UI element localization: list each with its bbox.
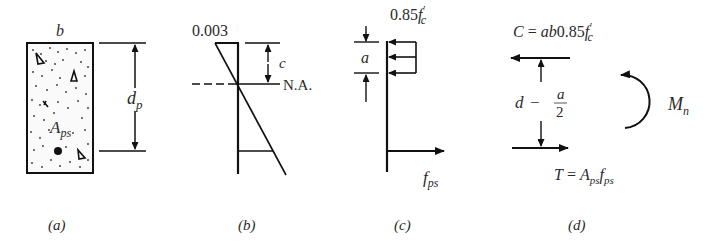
compression-formula: C = ab0.85f′c xyxy=(513,20,594,44)
caption-c: (c) xyxy=(394,217,411,234)
lever-denominator: 2 xyxy=(556,104,564,120)
stress-label: 0.85f′c xyxy=(390,3,427,27)
dp-label: dp xyxy=(127,88,143,112)
panel-b-strain: 0.003 c N.A. (b) xyxy=(192,22,312,234)
width-label-b: b xyxy=(56,22,64,39)
lever-numerator: a xyxy=(557,86,565,102)
caption-a: (a) xyxy=(48,217,66,234)
flexural-analysis-diagram: b Aps dp (a) 0.003 xyxy=(0,0,713,250)
a-label: a xyxy=(361,49,369,66)
strain-label: 0.003 xyxy=(192,22,228,39)
panel-c-stress: 0.85f′c a fps (c) xyxy=(354,3,444,234)
caption-d: (d) xyxy=(568,217,586,234)
panel-d-forces: C = ab0.85f′c d − a 2 T = Apsfps Mn (d) xyxy=(511,20,689,234)
fps-label: fps xyxy=(423,168,439,190)
tension-formula: T = Apsfps xyxy=(554,166,614,186)
c-label: c xyxy=(279,55,286,71)
panel-a-cross-section: b Aps dp (a) xyxy=(27,22,146,234)
strain-profile xyxy=(215,43,286,175)
lever-d: d xyxy=(515,93,524,112)
moment-label: Mn xyxy=(667,94,689,118)
moment-arc xyxy=(621,75,650,128)
neutral-axis-label: N.A. xyxy=(283,77,312,93)
lever-minus: − xyxy=(530,93,540,112)
caption-b: (b) xyxy=(238,217,256,234)
prestressing-tendon xyxy=(54,147,62,155)
